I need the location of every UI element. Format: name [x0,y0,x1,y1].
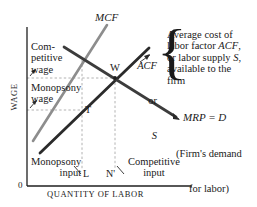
curve-label-s: S [132,130,157,142]
callout-line3-prefix: or labor supply [167,52,233,63]
callout-line3-comma: , [238,52,241,63]
point-label-W: W [110,62,120,73]
callout-line3: or labor supply S, [167,52,257,63]
curve-label-acf: ACF [132,60,157,72]
point-label-T: T [85,105,91,116]
mrp-note-line1: (Firm's demand [170,148,248,160]
callout-line2-comma: , [238,40,241,51]
callout-text: Average cost of labor factor ACF, or lab… [167,29,257,86]
monopsony-labor-market-diagram: WAGE QUANTITY OF LABOR 0 Com- petitive w… [0,0,257,207]
callout-line2: labor factor ACF, [167,40,257,51]
origin-label: 0 [18,180,23,190]
callout-line5: firm [167,75,257,86]
leader-N [117,166,124,174]
label-monopsony-input: Monopsony input [31,156,81,179]
curve-label-or: or [132,95,157,107]
arrowhead-mrp [173,113,180,120]
label-monopsony-input-line1: Monopsony [31,156,81,167]
point-W-marker [113,76,117,80]
label-monopsony-wage-line2: wage [31,93,81,104]
label-competitive-wage-line3: wage [31,64,63,75]
callout-line2-prefix: labor factor [167,40,218,51]
x-axis-label: QUANTITY OF LABOR [47,189,144,199]
label-monopsony-wage-line1: Monopsony [31,82,81,93]
mrp-note: (Firm's demand for labor) [170,125,248,207]
tick-label-N: N' [106,169,115,180]
y-axis-label: WAGE [9,75,19,119]
curve-label-mrp: MRP = D [183,112,226,124]
label-competitive-wage-line2: petitive [31,52,63,63]
curve-label-mcf: MCF [95,12,118,24]
callout-line1: Average cost of [167,29,257,40]
label-monopsony-wage: Monopsony wage [31,82,81,105]
label-competitive-wage: Com- petitive wage [31,41,63,75]
label-competitive-wage-line1: Com- [31,41,63,52]
curve-label-acf-supply: ACF or S [132,37,157,165]
callout-line2-acf: ACF [218,40,238,51]
callout-line4: available to the [167,63,257,74]
tick-label-L: L [83,169,89,180]
mrp-note-line2: for labor) [170,183,248,195]
label-monopsony-input-line2: input [31,167,81,178]
